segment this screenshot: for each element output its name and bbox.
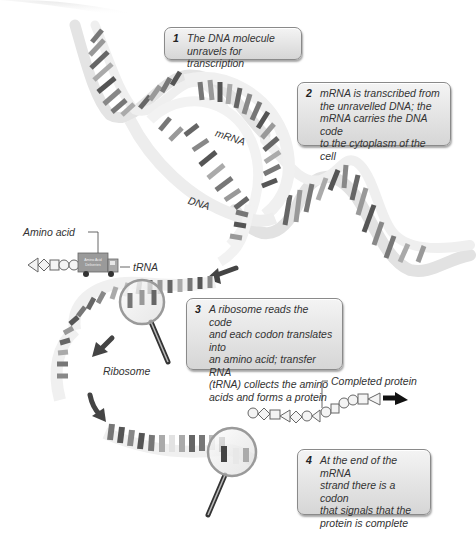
step-text: The DNA molecule unravels for transcript… — [187, 32, 293, 70]
step-3-callout: 3 A ribosome reads the code and each cod… — [186, 298, 343, 370]
step-number: 3 — [195, 303, 201, 316]
ribosome-arrow-icon — [92, 338, 112, 357]
step-text: A ribosome reads the code and each codon… — [209, 303, 334, 403]
step-number: 1 — [173, 32, 179, 45]
trna-label: tRNA — [133, 261, 158, 273]
svg-text:Amino Acid: Amino Acid — [84, 258, 102, 262]
step-2-callout: 2 mRNA is transcribed from the unravelle… — [297, 82, 451, 146]
ribosome-label: Ribosome — [103, 365, 150, 377]
magnifying-glass-icon — [120, 280, 168, 362]
step-number: 2 — [306, 87, 312, 100]
step-text: At the end of the mRNA strand there is a… — [320, 454, 422, 529]
step-4-callout: 4 At the end of the mRNA strand there is… — [297, 449, 431, 515]
step-text: mRNA is transcribed from the unravelled … — [320, 87, 442, 162]
amino-acid-label: Amino acid — [23, 226, 75, 238]
magnifying-glass-icon — [208, 428, 256, 515]
amino-acid-chain-icon — [28, 258, 79, 272]
delivery-truck-icon: Amino Acid Deliveries — [78, 253, 118, 277]
faded-helix-top — [0, 0, 165, 20]
step-number: 4 — [306, 454, 312, 467]
completed-protein-label: Completed protein — [331, 375, 417, 387]
step-1-callout: 1 The DNA molecule unravels for transcri… — [164, 27, 302, 60]
svg-text:Deliveries: Deliveries — [85, 263, 101, 267]
arrow-right-icon — [383, 392, 408, 405]
arrow-down-icon — [90, 395, 106, 422]
